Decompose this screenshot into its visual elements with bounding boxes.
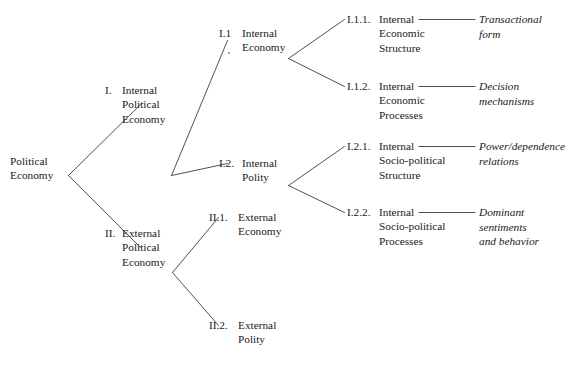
node-I21-numeral: I.2.1. bbox=[347, 139, 379, 153]
node-II2-numeral: II.2. bbox=[209, 318, 238, 332]
node-internal-economic-processes: I.1.2. Internal Economic Processes bbox=[347, 79, 425, 122]
node-I12-line2: Economic bbox=[379, 93, 425, 107]
node-internal-economy: I.1 Internal Economy bbox=[219, 26, 285, 55]
node-I-line2: Political bbox=[122, 97, 165, 111]
node-II2-line2: Polity bbox=[238, 332, 276, 346]
node-I21-line1: Internal bbox=[379, 139, 446, 153]
node-I2-line2: Polity bbox=[242, 170, 277, 184]
node-internal-sociopolitical-structure: I.2.1. Internal Socio-political Structur… bbox=[347, 139, 446, 182]
node-I12-numeral: I.1.2. bbox=[347, 79, 379, 93]
node-II1-line1: External bbox=[238, 210, 281, 224]
annotation-I21-line1: Power/dependence bbox=[479, 139, 565, 154]
annotation-I12-line1: Decision bbox=[479, 79, 534, 94]
node-I1-line1: Internal bbox=[242, 26, 285, 40]
edge-I1-to-I11 bbox=[289, 20, 345, 59]
node-I2-text: Internal Polity bbox=[242, 156, 277, 185]
node-I-text: Internal Political Economy bbox=[122, 83, 165, 126]
node-I12-line3: Processes bbox=[379, 108, 425, 122]
node-I22-line2: Socio-political bbox=[379, 219, 446, 233]
connector-lines bbox=[0, 0, 585, 368]
annotation-I21-line2: relations bbox=[479, 154, 565, 169]
node-internal-economic-structure: I.1.1. Internal Economic Structure bbox=[347, 12, 425, 55]
node-II1-line2: Economy bbox=[238, 224, 281, 238]
annotation-transactional-form: Transactional form bbox=[479, 12, 542, 41]
node-II-text: External Political Economy bbox=[122, 226, 165, 269]
node-I1-numeral: I.1 bbox=[219, 26, 242, 40]
tree-diagram: Political Economy I. Internal Political … bbox=[0, 0, 585, 368]
node-I22-text: Internal Socio-political Processes bbox=[379, 205, 446, 248]
node-I22-line3: Processes bbox=[379, 234, 446, 248]
node-II1-numeral: II.1. bbox=[209, 210, 238, 224]
edge-I1-to-I12 bbox=[289, 59, 345, 87]
node-external-polity: II.2. External Polity bbox=[209, 318, 276, 347]
node-I1-text: Internal Economy bbox=[242, 26, 285, 55]
node-II-line3: Economy bbox=[122, 255, 165, 269]
node-I11-line3: Structure bbox=[379, 41, 425, 55]
node-II2-text: External Polity bbox=[238, 318, 276, 347]
node-I21-line2: Socio-political bbox=[379, 153, 446, 167]
node-I11-text: Internal Economic Structure bbox=[379, 12, 425, 55]
node-I2-line1: Internal bbox=[242, 156, 277, 170]
edge-I2-to-I21 bbox=[289, 147, 345, 186]
edge-I2-to-I22 bbox=[289, 186, 345, 213]
node-I11-numeral: I.1.1. bbox=[347, 12, 379, 26]
annotation-I22-line3: and behavior bbox=[479, 234, 539, 249]
node-I1-line2: Economy bbox=[242, 40, 285, 54]
node-I11-line2: Economic bbox=[379, 26, 425, 40]
node-I21-text: Internal Socio-political Structure bbox=[379, 139, 446, 182]
node-I-line1: Internal bbox=[122, 83, 165, 97]
node-I-numeral: I. bbox=[105, 83, 122, 97]
node-II-numeral: II. bbox=[105, 226, 122, 240]
annotation-dominant-sentiments-and-behavior: Dominant sentiments and behavior bbox=[479, 205, 539, 249]
node-internal-sociopolitical-processes: I.2.2. Internal Socio-political Processe… bbox=[347, 205, 446, 248]
node-I11-line1: Internal bbox=[379, 12, 425, 26]
node-I-line3: Economy bbox=[122, 112, 165, 126]
annotation-power-dependence-relations: Power/dependence relations bbox=[479, 139, 565, 168]
node-root-line2: Economy bbox=[10, 168, 53, 182]
node-I22-line1: Internal bbox=[379, 205, 446, 219]
annotation-I11-line1: Transactional bbox=[479, 12, 542, 27]
node-external-economy: II.1. External Economy bbox=[209, 210, 281, 239]
annotation-I22-line2: sentiments bbox=[479, 220, 539, 235]
node-I2-numeral: I.2. bbox=[219, 156, 242, 170]
node-I21-line3: Structure bbox=[379, 168, 446, 182]
node-internal-political-economy: I. Internal Political Economy bbox=[105, 83, 165, 126]
annotation-I12-line2: mechanisms bbox=[479, 94, 534, 109]
node-root-line1: Political bbox=[10, 154, 53, 168]
node-external-political-economy: II. External Political Economy bbox=[105, 226, 165, 269]
annotation-I22-line1: Dominant bbox=[479, 205, 539, 220]
node-I22-numeral: I.2.2. bbox=[347, 205, 379, 219]
node-I12-text: Internal Economic Processes bbox=[379, 79, 425, 122]
annotation-I11-line2: form bbox=[479, 27, 542, 42]
annotation-decision-mechanisms: Decision mechanisms bbox=[479, 79, 534, 108]
node-II2-line1: External bbox=[238, 318, 276, 332]
scan-artifact-speck bbox=[228, 52, 230, 54]
node-II-line1: External bbox=[122, 226, 165, 240]
node-II1-text: External Economy bbox=[238, 210, 281, 239]
node-political-economy: Political Economy bbox=[10, 154, 53, 183]
node-internal-polity: I.2. Internal Polity bbox=[219, 156, 277, 185]
node-II-line2: Political bbox=[122, 240, 165, 254]
node-I12-line1: Internal bbox=[379, 79, 425, 93]
